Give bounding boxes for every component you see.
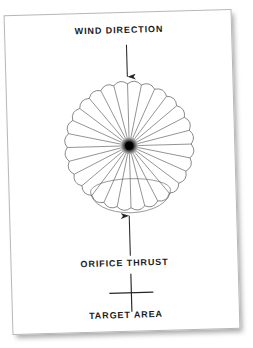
- canopy-gore-line: [81, 151, 125, 186]
- figure-canvas: WIND DIRECTION ORIFICE THRUST TARGET ARE…: [0, 0, 253, 348]
- orifice-thrust-arrow-icon: [129, 216, 130, 256]
- canopy-gore-line: [131, 153, 145, 206]
- canopy-gore-line: [103, 153, 128, 203]
- canopy-gore-line: [74, 149, 124, 174]
- canopy-gore-line: [135, 117, 185, 142]
- canopy-gore-line: [69, 148, 122, 162]
- canopy-gore-line: [67, 146, 121, 148]
- canopy-gore-line: [73, 119, 123, 144]
- canopy-gore-line: [128, 84, 130, 138]
- canopy-gore-line: [131, 89, 156, 139]
- canopy-gore-line: [114, 85, 128, 138]
- paper-card-wrapper: WIND DIRECTION ORIFICE THRUST TARGET ARE…: [0, 0, 253, 348]
- canopy-gore-line: [137, 144, 191, 146]
- canopy-gore-line: [89, 97, 124, 141]
- canopy-gore-line: [101, 90, 126, 140]
- canopy-vent-hub: [120, 137, 138, 155]
- label-target-area: TARGET AREA: [89, 309, 163, 322]
- canopy-gore-line: [134, 106, 178, 141]
- target-area-cross-icon: [109, 273, 154, 312]
- canopy-gore-line: [134, 151, 169, 195]
- wind-direction-arrow-icon: [126, 45, 127, 77]
- canopy-gore-line: [136, 130, 189, 144]
- target-cross-vertical: [131, 274, 132, 312]
- parachute-diagram: [5, 10, 242, 336]
- paper-sheet: WIND DIRECTION ORIFICE THRUST TARGET ARE…: [4, 9, 241, 335]
- canopy-gore-line: [133, 152, 158, 202]
- canopy-gore-line: [129, 153, 131, 207]
- canopy-gore-line: [136, 147, 186, 172]
